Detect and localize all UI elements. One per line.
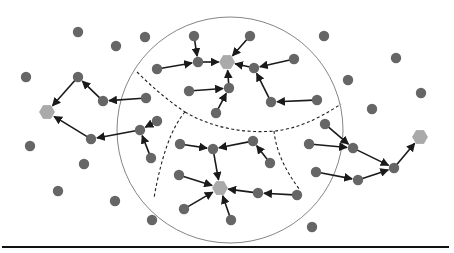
sensor-node-B1	[175, 139, 185, 149]
sensor-node-i11	[391, 53, 401, 63]
sensor-node-i4	[21, 72, 31, 82]
sensor-node-B9	[253, 188, 263, 198]
partition-divider-left-top	[137, 72, 185, 112]
edge-B5-to-B0	[182, 176, 212, 186]
sensor-node-R5	[353, 175, 363, 185]
sensor-node-i5	[25, 141, 35, 151]
edge-B2-to-B4	[219, 142, 250, 148]
sensor-node-T8	[224, 83, 234, 93]
sensor-node-i7	[53, 186, 63, 196]
edge-L4-to-L0	[54, 116, 88, 137]
edge-R2-to-R1	[356, 149, 389, 165]
edge-L2-to-L1	[82, 81, 100, 99]
sensor-node-R6	[311, 167, 321, 177]
sensor-node-T11	[266, 97, 276, 107]
sensor-node-R2	[348, 143, 358, 153]
edge-T9-to-T8	[217, 93, 226, 110]
sensor-node-L6	[152, 116, 162, 126]
sensor-node-B4	[208, 144, 218, 154]
sensor-node-B8	[292, 190, 302, 200]
sensor-node-B7	[226, 215, 236, 225]
edge-T2-to-T3	[160, 63, 192, 68]
sensor-node-T3	[193, 57, 203, 67]
sensor-node-L4	[86, 134, 96, 144]
sensor-node-T9	[211, 108, 221, 118]
sink-node-T0	[220, 56, 235, 69]
sensor-node-L2	[98, 96, 108, 106]
sensor-node-i15	[307, 222, 317, 232]
edge-B9-to-B0	[228, 189, 255, 193]
sink-node-L0	[40, 106, 55, 119]
edge-B6-to-B0	[187, 192, 213, 207]
sensor-node-i2	[111, 41, 121, 51]
edge-L7-to-L5	[142, 136, 150, 156]
edge-R1-to-R0	[396, 143, 415, 165]
sensor-node-R3	[320, 119, 330, 129]
sensor-node-B2	[248, 136, 258, 146]
sensor-node-T5	[289, 54, 299, 64]
edge-B7-to-B0	[223, 196, 230, 217]
network-diagram	[0, 0, 454, 253]
sensor-node-B5	[174, 170, 184, 180]
sensor-node-i14	[367, 104, 377, 114]
sensor-node-i9	[147, 215, 157, 225]
sensor-node-i8	[110, 196, 120, 206]
edge-R5-to-R1	[361, 170, 388, 179]
partition-divider-right	[274, 131, 300, 190]
edge-B4-to-B0	[214, 152, 219, 180]
edge-L3-to-L2	[109, 98, 143, 100]
edge-T8-to-T0	[228, 70, 229, 85]
sensor-node-R1	[389, 163, 399, 173]
partition-divider-center	[185, 104, 341, 132]
sensor-node-L5	[135, 125, 145, 135]
sensor-node-i12	[343, 75, 353, 85]
edge-T10-to-T11	[277, 100, 314, 102]
edge-T4-to-T0	[232, 38, 247, 55]
sink-node-R0	[413, 131, 428, 144]
edge-R3-to-R2	[327, 126, 348, 144]
edges-layer	[53, 38, 415, 217]
sensor-node-T4	[245, 31, 255, 41]
sensor-node-T7	[184, 86, 194, 96]
sensor-node-B3	[265, 158, 275, 168]
sensor-node-T10	[312, 95, 322, 105]
sensor-node-L1	[73, 72, 83, 82]
sensor-node-L7	[146, 153, 156, 163]
edge-T1-to-T3	[194, 39, 197, 56]
sensor-node-L3	[141, 93, 151, 103]
sensor-node-i10	[319, 31, 329, 41]
edge-T11-to-T6	[257, 73, 270, 99]
sensor-node-T1	[189, 31, 199, 41]
edge-B3-to-B2	[257, 146, 268, 161]
sensor-node-T6	[249, 63, 259, 73]
sensor-node-i13	[416, 88, 426, 98]
edge-B8-to-B9	[264, 193, 294, 195]
edge-B1-to-B4	[183, 144, 207, 148]
sensor-node-i1	[73, 27, 83, 37]
sensor-node-B6	[179, 204, 189, 214]
edge-T6-to-T0	[235, 64, 251, 68]
edge-R6-to-R5	[319, 173, 352, 179]
edge-T7-to-T8	[192, 88, 223, 90]
sensor-node-R4	[304, 139, 314, 149]
sink-node-B0	[213, 182, 228, 195]
coverage-circle	[117, 17, 343, 243]
sensor-node-i6	[79, 159, 89, 169]
sensor-node-i3	[140, 32, 150, 42]
edge-L1-to-L0	[53, 79, 76, 105]
sensor-node-T2	[152, 64, 162, 74]
edge-T5-to-T6	[260, 60, 291, 67]
